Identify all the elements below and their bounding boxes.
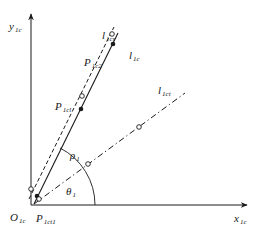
y-axis-label-main: y: [9, 20, 14, 32]
line-l1cr-label: l1cr: [102, 26, 115, 42]
y-axis-label-sub: 1c: [15, 26, 22, 34]
theta-label-sub: 1: [72, 191, 76, 199]
point-p1ct1-label-sub: 1ct1: [44, 218, 56, 226]
y-axis-label: y1c: [9, 17, 22, 33]
line-l1c-label-main: l: [129, 49, 132, 61]
line-l1cr-label-main: l: [102, 29, 105, 41]
point-open-ct-upper: [137, 125, 142, 130]
point-open-ct-lower: [37, 197, 42, 202]
point-p1cl-label-main: P: [55, 100, 62, 112]
rho-label: ρ1: [70, 146, 80, 162]
line-l1ct-label-main: l: [158, 84, 161, 96]
origin-label: O1c: [10, 208, 26, 224]
point-open-p1cl: [80, 94, 85, 99]
rho-label-main: ρ: [70, 149, 75, 161]
line-l1ct-label: l1ct: [158, 81, 171, 97]
point-open-ct-middle: [86, 162, 91, 167]
rho-label-sub: 1: [76, 155, 80, 163]
x-axis-label-main: x: [234, 212, 239, 224]
theta-label: θ1: [66, 182, 76, 198]
point-p1ct1-label: P1ct1: [36, 209, 56, 225]
origin-label-sub: 1c: [19, 217, 26, 225]
theta-label-main: θ: [66, 185, 71, 197]
point-p1c2-label-main: P: [84, 56, 91, 68]
point-p1c2-label: P1c2: [84, 53, 102, 69]
x-axis-label: x1c: [234, 209, 247, 225]
point-filled-middle: [79, 107, 84, 112]
line-l1ct-label-sub: 1ct: [162, 90, 171, 98]
point-p1cl-label-sub: 1cl: [63, 106, 72, 114]
line-l1c: [34, 33, 118, 204]
origin-label-main: O: [10, 211, 18, 223]
point-p1c2-label-sub: 1c2: [92, 62, 102, 70]
line-l1c-label: l1c: [129, 46, 140, 62]
point-p1cl-label: P1cl: [55, 97, 71, 113]
point-open-lower: [29, 187, 34, 192]
point-p1ct1-label-main: P: [36, 212, 43, 224]
line-l1c-label-sub: 1c: [133, 55, 140, 63]
coordinate-diagram: [0, 0, 259, 227]
x-axis-label-sub: 1c: [240, 218, 247, 226]
line-l1cr-label-sub: 1cr: [106, 35, 115, 43]
